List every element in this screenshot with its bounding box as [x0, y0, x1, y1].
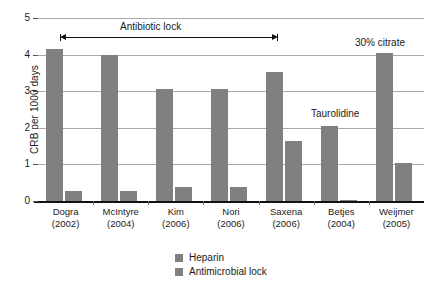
bar	[120, 191, 137, 201]
gridline	[38, 164, 424, 165]
category-year: (2004)	[314, 218, 369, 230]
category-name: Kim	[168, 206, 184, 217]
arrow-cap-right-icon	[277, 34, 278, 41]
x-axis-group-tick	[148, 201, 149, 205]
category-name: Nori	[222, 206, 239, 217]
annotation-antibiotic-lock-arrow	[60, 34, 278, 41]
x-axis-category-label: Dogra(2002)	[38, 206, 93, 230]
bar	[395, 163, 412, 201]
chart-legend: HeparinAntimicrobial lock	[175, 251, 267, 279]
legend-swatch	[175, 268, 183, 276]
bar	[285, 141, 302, 201]
category-year: (2002)	[38, 218, 93, 230]
chart-figure: CRB per 1000 days 012345 Dogra(2002)McIn…	[0, 0, 433, 291]
y-axis-tick	[33, 164, 38, 165]
y-axis-tick-label: 3	[16, 86, 30, 96]
bar	[156, 89, 173, 201]
category-name: Betjes	[328, 206, 354, 217]
annotation-citrate-label: 30% citrate	[355, 37, 405, 48]
x-axis-group-tick	[203, 201, 204, 205]
bar	[230, 187, 247, 201]
category-name: McIntyre	[102, 206, 138, 217]
category-year: (2004)	[93, 218, 148, 230]
x-axis-category-label: McIntyre(2004)	[93, 206, 148, 230]
legend-item: Antimicrobial lock	[175, 265, 267, 279]
category-year: (2006)	[203, 218, 258, 230]
y-axis-tick-label: 2	[16, 123, 30, 133]
y-axis-tick-label: 4	[16, 50, 30, 60]
gridline	[38, 91, 424, 92]
y-axis-tick	[33, 128, 38, 129]
x-axis-group-tick	[93, 201, 94, 205]
legend-label: Antimicrobial lock	[189, 265, 267, 279]
bar	[321, 126, 338, 201]
category-year: (2006)	[259, 218, 314, 230]
bar	[46, 49, 63, 201]
y-axis-tick	[33, 201, 38, 202]
gridline	[38, 55, 424, 56]
y-axis-tick-label: 1	[16, 159, 30, 169]
category-name: Dogra	[53, 206, 79, 217]
bar	[65, 191, 82, 201]
x-axis-group-tick	[314, 201, 315, 205]
x-axis-category-label: Saxena(2006)	[259, 206, 314, 230]
bar	[266, 72, 283, 201]
y-axis-tick	[33, 55, 38, 56]
arrow-shaft	[63, 37, 275, 38]
x-axis-group-tick	[259, 201, 260, 205]
gridline	[38, 18, 424, 19]
x-axis-category-label: Betjes(2004)	[314, 206, 369, 230]
bar	[340, 200, 357, 201]
annotation-taurolidine-label: Taurolidine	[311, 108, 359, 119]
bar	[101, 55, 118, 201]
y-axis-tick-label: 0	[16, 196, 30, 206]
legend-label: Heparin	[189, 251, 224, 265]
bar	[211, 89, 228, 201]
y-axis-tick-label: 5	[16, 13, 30, 23]
annotation-antibiotic-lock-label: Antibiotic lock	[120, 21, 181, 32]
category-name: Weijmer	[379, 206, 414, 217]
x-axis-category-label: Weijmer(2005)	[369, 206, 424, 230]
category-year: (2005)	[369, 218, 424, 230]
legend-swatch	[175, 254, 183, 262]
y-axis-tick	[33, 91, 38, 92]
legend-item: Heparin	[175, 251, 267, 265]
x-axis-category-label: Nori(2006)	[203, 206, 258, 230]
category-year: (2006)	[148, 218, 203, 230]
bar	[175, 187, 192, 201]
x-axis-group-tick	[369, 201, 370, 205]
gridline	[38, 128, 424, 129]
category-name: Saxena	[270, 206, 302, 217]
arrow-cap-left-icon	[60, 34, 61, 41]
bar	[376, 53, 393, 201]
y-axis-tick	[33, 18, 38, 19]
x-axis-category-label: Kim(2006)	[148, 206, 203, 230]
